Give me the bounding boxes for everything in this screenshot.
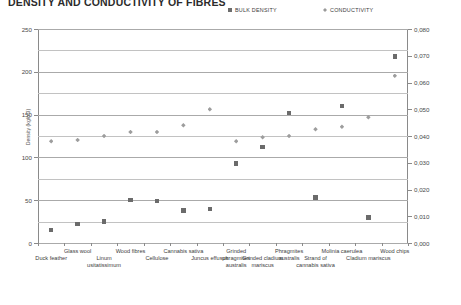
gridline-minor xyxy=(38,179,408,180)
x-axis-tick xyxy=(91,243,92,246)
y-axis-right-tick-label: 0,030 xyxy=(414,159,444,166)
data-point-conductivity xyxy=(287,134,292,139)
data-point-bulk-density xyxy=(75,222,80,227)
legend-label-conductivity: CONDUCTIVITY xyxy=(330,7,373,13)
data-point-conductivity xyxy=(208,107,213,112)
legend-item-conductivity: CONDUCTIVITY xyxy=(323,7,373,13)
data-point-conductivity xyxy=(234,139,239,144)
data-point-bulk-density xyxy=(260,145,265,150)
data-point-conductivity xyxy=(313,127,318,132)
y-axis-right-tick xyxy=(408,190,412,191)
x-axis-tick xyxy=(276,243,277,246)
data-point-bulk-density xyxy=(155,199,160,204)
gridline-minor xyxy=(38,50,408,51)
data-point-bulk-density xyxy=(393,54,398,59)
y-axis-left-tick-label: 50 xyxy=(6,197,32,204)
y-axis-left-tick xyxy=(34,200,38,201)
x-axis-tick xyxy=(223,243,224,246)
data-point-conductivity xyxy=(102,134,107,139)
data-point-bulk-density xyxy=(313,195,318,200)
x-axis-tick xyxy=(249,243,250,246)
gridline xyxy=(38,29,408,30)
data-point-bulk-density xyxy=(128,198,133,203)
x-axis-category-label: Glass wool xyxy=(55,248,101,255)
gridline xyxy=(38,115,408,116)
chart-legend: BULK DENSITY CONDUCTIVITY xyxy=(228,6,453,18)
data-point-conductivity xyxy=(366,115,371,120)
x-axis-tick xyxy=(382,243,383,246)
data-point-conductivity xyxy=(75,138,80,143)
gridline xyxy=(38,200,408,201)
gridline-minor xyxy=(38,136,408,137)
y-axis-left-tick-label: 250 xyxy=(6,26,32,33)
gridline-minor xyxy=(38,222,408,223)
data-point-conductivity xyxy=(340,124,345,129)
chart-container: DENSITY AND CONDUCTIVITY OF FIBRES BULK … xyxy=(0,0,461,305)
data-point-conductivity xyxy=(393,74,398,79)
y-axis-right-tick-label: 0,050 xyxy=(414,106,444,113)
x-axis-category-label: Wood fibres xyxy=(108,248,154,255)
y-axis-right-tick-label: 0,040 xyxy=(414,133,444,140)
y-axis-left-tick xyxy=(34,29,38,30)
y-axis-right-tick xyxy=(408,136,412,137)
x-axis-category-label: Wood chips xyxy=(372,248,418,255)
y-axis-right-tick xyxy=(408,109,412,110)
x-axis-category-label: Duck feather xyxy=(28,255,74,262)
gridline-minor xyxy=(38,93,408,94)
data-point-conductivity xyxy=(181,123,186,128)
y-axis-left-tick xyxy=(34,72,38,73)
y-axis-left-tick xyxy=(34,157,38,158)
chart-title: DENSITY AND CONDUCTIVITY OF FIBRES xyxy=(8,0,226,8)
y-axis-right-tick-label: 0,020 xyxy=(414,186,444,193)
y-axis-right-tick xyxy=(408,56,412,57)
y-axis-right-tick xyxy=(408,83,412,84)
x-axis-tick xyxy=(355,243,356,246)
data-point-conductivity xyxy=(155,130,160,135)
y-axis-right-tick xyxy=(408,29,412,30)
y-axis-left-tick-label: 200 xyxy=(6,68,32,75)
x-axis-tick xyxy=(117,243,118,246)
x-axis-tick xyxy=(408,243,409,246)
x-axis-tick xyxy=(329,243,330,246)
y-axis-left-tick-label: 0 xyxy=(6,240,32,247)
gridline xyxy=(38,72,408,73)
legend-label-bulk-density: BULK DENSITY xyxy=(235,7,277,13)
plot-area: Density (kg/m3) Conductivity (W/mK) 0501… xyxy=(38,29,408,243)
x-axis-tick xyxy=(302,243,303,246)
y-axis-right-tick-label: 0,010 xyxy=(414,213,444,220)
gridline xyxy=(38,157,408,158)
x-axis-category-label: Cellulose xyxy=(134,255,180,262)
x-axis-tick xyxy=(64,243,65,246)
x-axis-tick xyxy=(144,243,145,246)
data-point-bulk-density xyxy=(287,111,292,116)
data-point-bulk-density xyxy=(234,161,239,166)
y-axis-left-tick xyxy=(34,115,38,116)
y-axis-right-tick xyxy=(408,163,412,164)
data-point-bulk-density xyxy=(208,207,213,212)
x-axis-tick xyxy=(38,243,39,246)
diamond-marker-icon xyxy=(323,8,327,12)
data-point-bulk-density xyxy=(340,104,345,109)
data-point-bulk-density xyxy=(181,208,186,213)
data-point-conductivity xyxy=(49,139,54,144)
square-marker-icon xyxy=(228,8,232,12)
y-axis-left-tick-label: 100 xyxy=(6,154,32,161)
x-axis-category-label: Molinia caerulea xyxy=(319,248,365,255)
y-axis-right-tick-label: 0,070 xyxy=(414,52,444,59)
y-axis-right-tick-label: 0,080 xyxy=(414,26,444,33)
legend-item-bulk-density: BULK DENSITY xyxy=(228,7,277,13)
x-axis-tick xyxy=(170,243,171,246)
x-axis-category-label: Cladium mariscus xyxy=(345,255,391,262)
x-axis-category-label: Cannabis sativa xyxy=(160,248,206,255)
x-axis-tick xyxy=(197,243,198,246)
y-axis-left-tick-label: 150 xyxy=(6,111,32,118)
y-axis-right-tick-label: 0,060 xyxy=(414,79,444,86)
x-axis-category-label: Strand of cannabis sativa xyxy=(293,255,339,269)
x-axis-category-label: Linum usitatissimum xyxy=(81,255,127,269)
y-axis-right-tick-label: 0,000 xyxy=(414,240,444,247)
data-point-bulk-density xyxy=(102,219,107,224)
data-point-bulk-density xyxy=(49,228,54,233)
data-point-bulk-density xyxy=(366,215,371,220)
y-axis-right-tick xyxy=(408,216,412,217)
data-point-conductivity xyxy=(128,130,133,135)
